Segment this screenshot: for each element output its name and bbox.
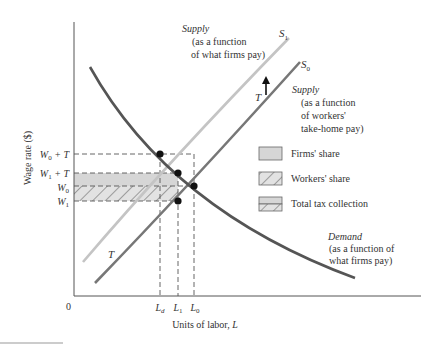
tax-gap-label: T bbox=[108, 248, 115, 260]
svg-text:Demand: Demand bbox=[327, 231, 363, 242]
y-tick-w1: W1 bbox=[57, 196, 69, 209]
legend-swatch-firms bbox=[259, 147, 282, 160]
legend-label-firms: Firms' share bbox=[291, 148, 340, 159]
svg-text:(as a function: (as a function bbox=[301, 97, 355, 109]
svg-text:(as a function: (as a function bbox=[192, 36, 246, 48]
tax-arrow-label: T bbox=[255, 91, 262, 103]
firms-share-region bbox=[74, 173, 178, 186]
legend-label-workers: Workers' share bbox=[291, 173, 351, 184]
x-tick-l0: L0 bbox=[189, 302, 200, 315]
x-axis-label: Units of labor, L bbox=[172, 319, 238, 330]
svg-text:what firms pay): what firms pay) bbox=[329, 255, 392, 267]
x-tick-ld: Ld bbox=[154, 302, 165, 315]
s0-label: S0 bbox=[301, 58, 311, 73]
y-tick-w1t: W1 + T bbox=[40, 168, 71, 181]
svg-text:of what firms pay): of what firms pay) bbox=[191, 49, 265, 61]
x-tick-labels: Ld L1 L0 bbox=[154, 302, 200, 315]
tax-arrow-icon bbox=[262, 76, 270, 95]
svg-text:of workers': of workers' bbox=[301, 110, 346, 121]
svg-text:Supply: Supply bbox=[292, 84, 320, 95]
legend: Firms' share Workers' share Total tax co… bbox=[259, 147, 368, 211]
supply0-annotation: Supply (as a function of workers' take-h… bbox=[292, 84, 363, 135]
demand-annotation: Demand (as a function of what firms pay) bbox=[327, 231, 395, 267]
supply1-annotation: Supply (as a function of what firms pay) bbox=[182, 23, 265, 61]
svg-text:(as a function of: (as a function of bbox=[329, 243, 395, 255]
s1-label: S1 bbox=[279, 27, 289, 42]
y-axis-label: Wage rate ($) bbox=[22, 131, 34, 185]
y-tick-w0t: W0 + T bbox=[40, 149, 71, 162]
y-tick-w0: W0 bbox=[57, 182, 69, 195]
legend-swatch-total-top bbox=[259, 197, 282, 204]
point-w0t-ld bbox=[156, 150, 163, 157]
origin-label: 0 bbox=[66, 301, 71, 312]
point-w0-l0 bbox=[190, 182, 197, 189]
x-tick-l1: L1 bbox=[172, 302, 183, 315]
tax-incidence-chart: T T S1 S0 Supply (as a function of what … bbox=[0, 0, 443, 346]
svg-text:take-home pay): take-home pay) bbox=[301, 123, 363, 135]
workers-share-region bbox=[74, 186, 178, 201]
legend-label-total: Total tax collection bbox=[291, 198, 368, 209]
point-w1-l1 bbox=[174, 197, 181, 204]
svg-text:Supply: Supply bbox=[182, 23, 210, 34]
y-tick-labels: W0 + T W1 + T W0 W1 bbox=[40, 149, 71, 209]
point-w1t-l1 bbox=[174, 169, 181, 176]
supply-curve-s1 bbox=[83, 38, 289, 262]
legend-swatch-total-bottom bbox=[259, 204, 282, 211]
legend-swatch-workers bbox=[259, 172, 282, 185]
